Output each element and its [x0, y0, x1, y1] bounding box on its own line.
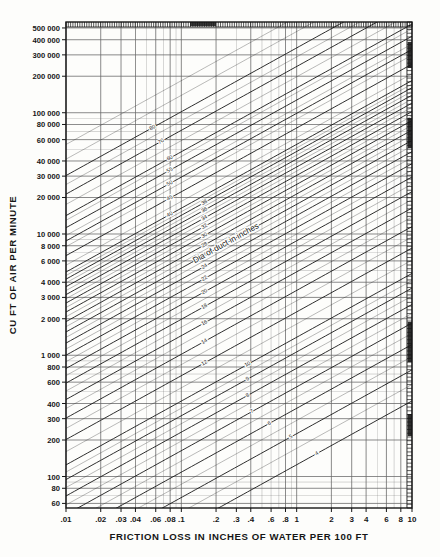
y-axis-title: CU FT OF AIR PER MINUTE — [7, 196, 18, 335]
x-tick-label: 2 — [329, 515, 334, 524]
x-tick-label: .06 — [150, 515, 162, 524]
y-tick-label: 100 000 — [33, 109, 60, 118]
x-tick-label: .4 — [247, 515, 254, 524]
y-tick-label: 100 — [47, 473, 60, 482]
y-tick-label: 300 — [47, 415, 60, 424]
x-tick-label: .08 — [165, 515, 177, 524]
y-tick-label: 8 000 — [41, 242, 60, 251]
x-axis-title: FRICTION LOSS IN INCHES OF WATER PER 100… — [109, 531, 368, 542]
x-tick-label: .1 — [178, 515, 185, 524]
x-tick-label: 10 — [408, 515, 417, 524]
x-tick-label: .2 — [213, 515, 220, 524]
y-tick-label: 30 000 — [37, 172, 60, 181]
y-tick-label: 4 000 — [41, 278, 60, 287]
x-tick-label: 1 — [294, 515, 299, 524]
y-tick-label: 20 000 — [37, 193, 60, 202]
x-tick-label: .01 — [60, 515, 72, 524]
y-tick-label: 300 000 — [33, 51, 60, 60]
y-tick-label: 80 — [52, 484, 60, 493]
y-tick-label: 800 — [47, 363, 60, 372]
y-tick-label: 500 000 — [33, 24, 60, 33]
duct-friction-chart: 4567891012141618202224262830323436384045… — [0, 0, 440, 557]
y-tick-label: 400 — [47, 400, 60, 409]
y-tick-label: 60 — [52, 499, 60, 508]
x-tick-label: 3 — [349, 515, 354, 524]
y-tick-label: 400 000 — [33, 36, 60, 45]
y-tick-label: 60 000 — [37, 136, 60, 145]
y-tick-label: 1 000 — [41, 351, 60, 360]
y-tick-label: 200 000 — [33, 72, 60, 81]
y-tick-label: 2 000 — [41, 315, 60, 324]
x-tick-label: .03 — [115, 515, 127, 524]
x-tick-label: 4 — [364, 515, 369, 524]
y-tick-label: 200 — [47, 436, 60, 445]
y-tick-label: 6 000 — [41, 257, 60, 266]
y-tick-label: 600 — [47, 378, 60, 387]
x-tick-label: .04 — [130, 515, 142, 524]
y-tick-label: 80 000 — [37, 120, 60, 129]
y-tick-label: 10 000 — [37, 230, 60, 239]
chart-canvas: 4567891012141618202224262830323436384045… — [0, 0, 440, 557]
y-tick-label: 3 000 — [41, 293, 60, 302]
y-tick-label: 40 000 — [37, 157, 60, 166]
x-tick-label: 8 — [399, 515, 404, 524]
x-tick-label: .02 — [95, 515, 107, 524]
x-tick-label: 6 — [384, 515, 389, 524]
x-tick-label: .8 — [282, 515, 289, 524]
x-tick-label: .6 — [268, 515, 275, 524]
x-tick-label: .3 — [233, 515, 240, 524]
